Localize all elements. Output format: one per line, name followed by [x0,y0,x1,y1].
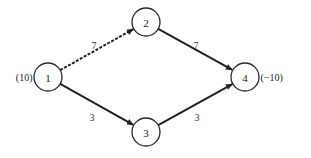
node-label-2: 2 [143,17,149,29]
network-diagram: 7733 1(10)234(−10) [0,0,311,158]
node-label-1: 1 [45,72,51,84]
edge-1-to-3 [60,84,133,125]
supply-label-node-4: (−10) [261,72,283,84]
node-2: 2 [132,8,160,36]
edge-label-1-3: 3 [90,112,95,123]
supply-label-node-1: (10) [16,72,33,84]
edges-layer: 7733 [60,29,232,125]
node-3: 3 [132,118,160,146]
edge-label-2-4: 7 [194,40,199,51]
edge-label-3-4: 3 [195,112,200,123]
node-4: 4(−10) [231,63,283,91]
node-1: 1(10) [16,63,62,91]
node-label-3: 3 [143,127,149,139]
edge-1-to-2 [60,29,133,70]
nodes-layer: 1(10)234(−10) [16,8,283,146]
edge-label-1-2: 7 [92,40,97,51]
node-label-4: 4 [242,72,248,84]
